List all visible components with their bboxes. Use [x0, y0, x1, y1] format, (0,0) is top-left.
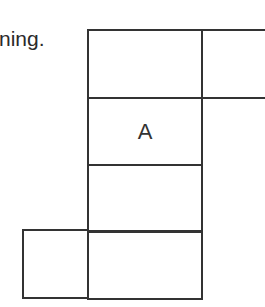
net-cell-top-center [87, 29, 203, 99]
net-cell-lower-center [87, 164, 203, 233]
net-cell-label-a: A [138, 119, 153, 145]
net-cell-bottom-left [22, 229, 89, 299]
net-cell-a: A [87, 97, 203, 166]
net-cell-bottom-center [87, 230, 203, 300]
cube-net-diagram: A [0, 0, 265, 307]
net-cell-top-right [201, 29, 265, 99]
